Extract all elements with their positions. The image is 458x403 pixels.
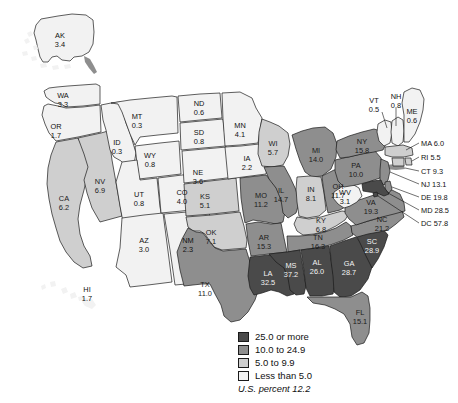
label-SC-name: SC [367,237,378,246]
label-IL-name: IL [278,186,284,195]
label-IL-value: 14.7 [274,195,288,204]
label-PA-name: PA [351,161,360,170]
label-AR-value: 15.3 [257,242,271,251]
label-GA-name: GA [344,259,355,268]
label-CA-name: CA [59,194,69,203]
label-TN-name: TN [313,233,323,242]
legend-item: 5.0 to 9.9 [238,356,388,369]
label-ND-value: 0.6 [194,108,204,117]
label-AL-value: 26.0 [310,267,324,276]
label-VA-value: 19.3 [364,207,378,216]
label-NV-name: NV [95,177,105,186]
label-SD-value: 0.8 [194,137,204,146]
label-ND-name: ND [194,99,205,108]
label-KY-name: KY [316,216,326,225]
label-NM-name: NM [182,236,194,245]
legend-swatch-25-or-more [238,332,249,342]
label-NY-name: NY [357,137,367,146]
label-NY-value: 15.8 [355,146,369,155]
label-NH-value: 0.8 [391,101,401,110]
label-CA-value: 6.2 [59,203,69,212]
legend-item: Less than 5.0 [238,369,388,382]
label-NC-value: 21.2 [375,224,389,233]
label-HI-value: 1.7 [82,294,92,303]
label-OR-name: OR [50,122,61,131]
legend-item: 25.0 or more [238,330,388,343]
legend-label-5-to-9: 5.0 to 9.9 [255,358,295,368]
label-WY-name: WY [144,151,156,160]
label-MS-value: 37.2 [284,270,298,279]
label-WV-name: WV [339,188,351,197]
label-KS-value: 5.1 [200,201,210,210]
label-FL-value: 15.1 [353,317,367,326]
label-MS-name: MS [285,261,296,270]
label-IN-name: IN [307,185,314,194]
label-IA-name: IA [244,154,251,163]
label-NE-value: 3.6 [193,177,203,186]
label-CO-name: CO [176,188,187,197]
label-VA-name: VA [366,198,375,207]
state-CT[interactable] [392,158,404,166]
label-WI-value: 5.7 [268,148,278,157]
state-MA[interactable] [385,145,413,157]
label-AR-name: AR [259,233,269,242]
callout-CT: CT 9.3 [421,167,443,176]
label-MT-value: 0.3 [132,121,142,130]
label-AL-name: AL [312,258,321,267]
label-HI-name: HI [83,285,90,294]
label-NH-name: NH [391,92,402,101]
label-SD-name: SD [194,128,204,137]
legend-swatch-less-than-5 [238,371,249,381]
callout-NJ: NJ 13.1 [421,180,446,189]
label-KS-name: KS [200,192,210,201]
label-FL-name: FL [356,308,365,317]
state-NH[interactable] [391,117,404,146]
state-DC[interactable] [373,192,378,197]
label-WI-name: WI [268,139,277,148]
label-MO-name: MO [255,191,267,200]
label-MT-name: MT [132,112,143,121]
label-NE-name: NE [193,168,203,177]
label-NM-value: 2.3 [183,245,193,254]
label-UT-name: UT [134,190,144,199]
callout-DC: DC 57.8 [421,219,448,228]
label-LA-name: LA [263,269,272,278]
map-callout-labels: MA 6.0 RI 5.5 CT 9.3 NJ 13.1 DE 19.8 MD … [421,139,449,228]
label-AZ-name: AZ [139,236,149,245]
label-UT-value: 0.8 [134,199,144,208]
label-VT-name: VT [369,96,379,105]
label-WA-name: WA [57,91,69,100]
label-ME-value: 0.6 [407,116,417,125]
label-GA-value: 28.7 [342,268,356,277]
label-AZ-value: 3.0 [139,245,149,254]
state-WA[interactable] [44,84,100,107]
label-OK-value: 7.1 [206,237,216,246]
label-ID-value: 0.3 [112,147,122,156]
label-TX-value: 11.0 [198,289,212,298]
us-map-svg: AK 3.4 HI 1.7 WA 3.3 OR 1.7 CA 6.2 NV 6.… [0,0,458,403]
label-ID-name: ID [113,138,120,147]
legend-swatch-10-to-24 [238,345,249,355]
legend-swatch-5-to-9 [238,358,249,368]
state-WY[interactable] [135,141,181,179]
legend-label-10-to-24: 10.0 to 24.9 [255,345,305,355]
label-MI-name: MI [312,146,320,155]
label-IN-value: 8.1 [306,194,316,203]
choropleth-map-figure: AK 3.4 HI 1.7 WA 3.3 OR 1.7 CA 6.2 NV 6.… [0,0,458,403]
state-RI[interactable] [405,158,412,165]
label-ME-name: ME [406,107,417,116]
label-LA-value: 32.5 [261,278,275,287]
legend-label-less-than-5: Less than 5.0 [255,371,312,381]
label-OK-name: OK [206,228,217,237]
label-TX-name: TX [200,280,210,289]
label-MN-value: 4.1 [235,130,245,139]
label-MO-value: 11.2 [254,200,268,209]
label-CO-value: 4.0 [177,197,187,206]
label-WV-value: 3.1 [340,197,350,206]
label-AK-value: 3.4 [55,40,65,49]
us-percent-note: U.S. percent 12.2 [238,384,388,394]
label-PA-value: 10.0 [349,170,363,179]
label-OR-value: 1.7 [51,131,61,140]
callout-MD: MD 28.5 [421,206,449,215]
callout-MA: MA 6.0 [421,139,444,148]
